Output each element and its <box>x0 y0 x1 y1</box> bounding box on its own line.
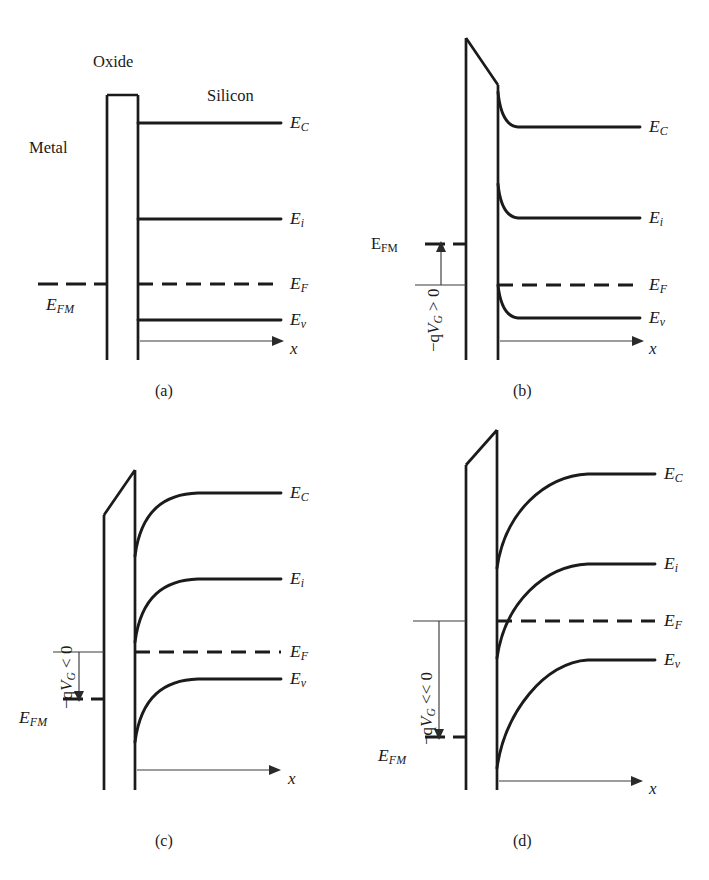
panel-a-ev-label: Ev <box>290 311 306 331</box>
panel-d-x-arrowhead <box>631 776 643 786</box>
panel-b-x-arrowhead <box>632 336 644 346</box>
panel-a-efm-label: EFM <box>46 296 74 316</box>
panel-c-ei-line <box>135 579 281 642</box>
panel-c-ev-line <box>135 679 281 742</box>
panel-a-ei-label: Ei <box>290 210 304 230</box>
panel-a-x-label: x <box>290 340 298 357</box>
panel-a-ef-label: EF <box>290 275 308 295</box>
panel-a-silicon-label: Silicon <box>207 88 254 105</box>
panel-d-caption: (d) <box>513 833 532 849</box>
panel-b-ev-label: Ev <box>649 309 665 329</box>
panel-c-ev-label: Ev <box>290 670 306 690</box>
panel-c-bias-label: −qVG < 0 <box>58 646 77 709</box>
panel-c-caption: (c) <box>155 833 173 849</box>
panel-b-bias-label: −qVG > 0 <box>425 289 444 352</box>
panel-b-ev-line <box>498 285 640 318</box>
panel-a-ec-label: EC <box>290 114 309 134</box>
panel-b-ef-label: EF <box>649 276 667 296</box>
panel-d-graphics <box>413 430 655 790</box>
panel-a-caption: (a) <box>155 383 173 399</box>
panel-c-ei-label: Ei <box>290 570 304 590</box>
panel-c-ec-line <box>135 493 281 556</box>
panel-d-x-label: x <box>649 780 657 797</box>
panel-d-ev-label: Ev <box>664 651 680 671</box>
figure-root: Oxide Metal Silicon EC Ei EF Ev EFM x (a… <box>0 0 709 880</box>
panel-d-ec-line <box>497 474 655 568</box>
panel-a-oxide-label: Oxide <box>93 54 133 71</box>
panel-c-ec-label: EC <box>290 484 309 504</box>
panel-b-ec-line <box>498 92 640 127</box>
panel-d-efm-label: EFM <box>378 747 406 767</box>
panel-b-ei-label: Ei <box>649 209 663 229</box>
panel-d-oxide-barrier <box>466 430 497 790</box>
panel-c-graphics <box>53 470 281 790</box>
panel-b-graphics <box>415 38 644 360</box>
panel-b-x-label: x <box>649 340 657 357</box>
panel-a-graphics <box>38 95 284 360</box>
panel-b-efm-label: EFM <box>371 236 398 254</box>
panel-d-ei-label: Ei <box>664 555 678 575</box>
panel-a-metal-label: Metal <box>29 140 68 157</box>
panel-b-ei-line <box>498 184 640 218</box>
panel-d-ev-line <box>497 660 655 768</box>
panel-c-ef-label: EF <box>290 643 308 663</box>
panel-c-efm-label: EFM <box>19 709 47 729</box>
panel-b-ec-label: EC <box>649 118 668 138</box>
panel-c-x-label: x <box>288 770 296 787</box>
panel-d-ef-label: EF <box>664 612 682 632</box>
panel-c-x-arrowhead <box>269 765 281 775</box>
panel-c-oxide-barrier <box>104 470 135 790</box>
panel-d-bias-label: −qVG << 0 <box>418 672 437 745</box>
panel-d-ec-label: EC <box>664 465 683 485</box>
panel-d-ei-line <box>497 564 655 658</box>
panel-a-oxide-barrier <box>107 95 138 360</box>
panel-b-caption: (b) <box>513 383 532 399</box>
panel-a-x-arrowhead <box>272 336 284 346</box>
panel-b-oxide-barrier <box>466 38 498 360</box>
band-diagram-canvas <box>0 0 709 880</box>
